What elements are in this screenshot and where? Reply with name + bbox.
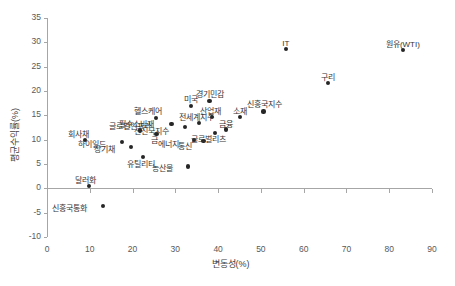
x-tick-label: 30 [160,245,190,254]
y-tick-mark [44,67,47,68]
data-point [129,145,133,149]
y-tick-mark [44,18,47,19]
x-tick-mark [175,189,176,193]
data-point [169,122,173,126]
x-tick-label: 90 [417,245,447,254]
scatter-chart: -10-505101520253035 0102030405060708090 … [0,0,455,286]
x-tick-label: 0 [32,245,62,254]
data-point-label: 신흥국통화 [52,204,87,213]
x-tick-mark [304,189,305,193]
data-point-label: 금융 [219,120,233,129]
data-point [261,109,265,113]
y-tick-mark [44,213,47,214]
x-tick-mark [47,189,48,193]
x-tick-label: 10 [75,245,105,254]
y-axis-line [47,18,48,237]
data-point [183,125,187,129]
y-axis-title: 평균수익률(%) [10,108,20,162]
data-point-label: 헬스케어 [134,107,162,116]
y-tick-label: 35 [11,13,41,22]
data-point [186,164,190,168]
x-tick-mark [90,189,91,193]
x-tick-mark [432,189,433,193]
y-tick-label: 25 [11,62,41,71]
data-point-label: 경기민감 [196,90,224,99]
y-tick-mark [44,164,47,165]
data-point [207,99,211,103]
y-tick-label: 0 [11,183,41,192]
y-tick-label: 30 [11,37,41,46]
y-tick-label: 20 [11,86,41,95]
x-tick-mark [389,189,390,193]
data-point-label: 글로벌리츠 [191,135,226,144]
data-point-label: 신흥국지수 [247,100,282,109]
data-point-label: 장기채 [94,145,115,154]
data-point [141,155,145,159]
y-tick-mark [44,42,47,43]
y-tick-label: -10 [11,232,41,241]
x-tick-mark [346,189,347,193]
x-axis-title: 변동성(%) [212,259,250,269]
data-point [120,140,124,144]
x-tick-label: 60 [289,245,319,254]
x-tick-mark [261,189,262,193]
data-point-label: 선진국지수 [134,127,169,136]
data-point-label: 달러화 [75,176,96,185]
x-axis-line [47,188,432,189]
data-point-label: 금 [151,136,158,145]
x-tick-mark [218,189,219,193]
data-point-label: IT [282,39,289,48]
y-tick-mark [44,91,47,92]
x-tick-mark [133,189,134,193]
data-point-label: 유틸리티 [127,160,155,169]
y-tick-mark [44,237,47,238]
data-point-label: 구리 [321,73,335,82]
x-tick-label: 50 [246,245,276,254]
data-point [101,204,105,208]
data-point [189,104,193,108]
y-tick-mark [44,115,47,116]
data-point [154,116,158,120]
data-point-label: 소재 [233,107,247,116]
data-point-label: 원유(WTI) [386,40,420,49]
x-tick-label: 70 [331,245,361,254]
x-tick-label: 80 [374,245,404,254]
y-tick-label: -5 [11,208,41,217]
data-point-label: 산업재 [200,107,221,116]
x-tick-label: 20 [118,245,148,254]
data-point-label: 농산물 [152,164,173,173]
data-point-label: 에너지 [158,140,179,149]
data-point-label: 회사채 [68,130,89,139]
x-tick-label: 40 [203,245,233,254]
y-tick-mark [44,140,47,141]
data-point-label: 통신 [178,142,192,151]
